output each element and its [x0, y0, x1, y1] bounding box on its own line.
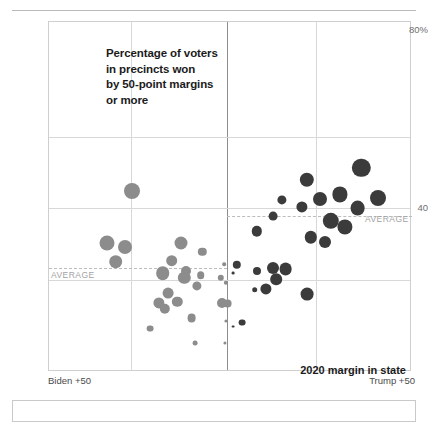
data-point [197, 272, 205, 280]
scatter-plot-area: Percentage of votersin precincts wonby 5… [48, 21, 411, 371]
data-point [222, 262, 226, 266]
data-point [109, 255, 123, 269]
data-point [193, 340, 198, 345]
chart-title-line-0: Percentage of voters [106, 46, 276, 62]
top-divider-rule [12, 10, 416, 11]
average-line-biden [49, 268, 227, 269]
data-point [156, 266, 170, 280]
average-label-trump: AVERAGE [365, 214, 409, 224]
chart-title-line-2: by 50-point margins [106, 77, 276, 93]
data-point [147, 325, 154, 332]
horizontal-gridline-60 [49, 137, 410, 138]
data-point [166, 255, 178, 267]
data-point [172, 296, 182, 306]
chart-title-line-1: in precincts won [106, 62, 276, 78]
chart-title: Percentage of votersin precincts wonby 5… [106, 46, 276, 108]
data-point [352, 158, 370, 176]
y-tick-label-80: 80% [384, 24, 428, 35]
data-point [252, 287, 258, 293]
data-point [337, 219, 352, 234]
x-axis-right-endpoint-label: Trump +50 [369, 375, 415, 386]
data-point [332, 187, 347, 202]
data-point [300, 172, 314, 186]
data-point [163, 287, 174, 298]
data-point [350, 201, 365, 216]
data-point [301, 288, 314, 301]
data-point [296, 201, 307, 212]
data-point [251, 226, 261, 236]
data-point [271, 273, 283, 285]
data-point [232, 261, 240, 269]
data-point [178, 272, 190, 284]
data-point [159, 303, 169, 313]
data-point [279, 263, 292, 276]
horizontal-gridline-30 [49, 280, 410, 281]
data-point [232, 325, 235, 328]
chart-title-line-3: or more [106, 93, 276, 109]
data-point [239, 319, 246, 326]
y-tick-label-40: 40 [384, 202, 428, 213]
data-point [253, 267, 261, 275]
data-point [260, 283, 271, 294]
data-point [232, 272, 235, 275]
data-point [223, 299, 232, 308]
data-point [99, 236, 114, 251]
x-axis-left-endpoint-label: Biden +50 [48, 375, 91, 386]
data-point [192, 281, 201, 290]
bottom-panel [12, 400, 416, 422]
data-point [322, 213, 338, 229]
data-point [198, 247, 206, 255]
data-point [319, 236, 331, 248]
data-point [277, 196, 286, 205]
data-point [124, 183, 140, 199]
data-point [174, 237, 187, 250]
data-point [268, 212, 277, 221]
data-point [313, 192, 327, 206]
average-label-biden: AVERAGE [51, 270, 95, 280]
data-point [187, 313, 196, 322]
data-point [118, 240, 132, 254]
